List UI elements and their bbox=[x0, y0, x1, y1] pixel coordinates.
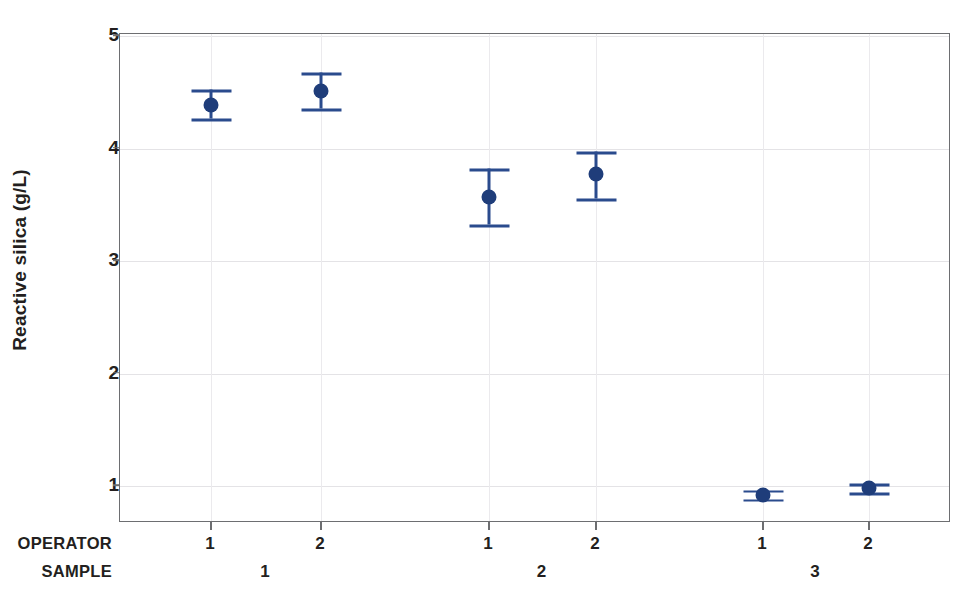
gridline-horizontal bbox=[120, 36, 949, 37]
gridline-vertical bbox=[489, 34, 490, 521]
operator-tick-label: 2 bbox=[315, 534, 324, 554]
data-point bbox=[596, 174, 597, 175]
y-axis-title: Reactive silica (g/L) bbox=[0, 0, 40, 520]
sample-tick-label: 1 bbox=[260, 562, 269, 582]
error-bar-cap-lower bbox=[191, 119, 231, 122]
gridline-vertical bbox=[869, 34, 870, 521]
data-point-marker bbox=[204, 97, 219, 112]
data-point-marker bbox=[314, 84, 329, 99]
operator-row-label: OPERATOR bbox=[0, 534, 112, 553]
data-point-marker bbox=[862, 481, 877, 496]
gridline-horizontal bbox=[120, 486, 949, 487]
data-point bbox=[489, 196, 490, 197]
error-bar-cap-upper bbox=[576, 151, 616, 154]
error-bar-cap-lower bbox=[469, 225, 509, 228]
x-tick-mark bbox=[762, 522, 764, 530]
error-bar-cap-upper bbox=[191, 90, 231, 93]
y-axis-ticks: 12345 bbox=[88, 0, 119, 607]
operator-tick-label: 1 bbox=[757, 534, 766, 554]
sample-row-label: SAMPLE bbox=[0, 562, 112, 581]
x-tick-mark bbox=[488, 522, 490, 530]
error-bar-cap-lower bbox=[576, 199, 616, 202]
x-tick-mark bbox=[210, 522, 212, 530]
operator-tick-label: 1 bbox=[483, 534, 492, 554]
x-tick-mark bbox=[320, 522, 322, 530]
error-bar-cap-upper bbox=[469, 168, 509, 171]
data-point bbox=[321, 91, 322, 92]
error-bar-cap-upper bbox=[301, 73, 341, 76]
gridline-horizontal bbox=[120, 261, 949, 262]
operator-tick-label: 2 bbox=[590, 534, 599, 554]
gridline-vertical bbox=[763, 34, 764, 521]
data-point-marker bbox=[756, 488, 771, 503]
data-point-marker bbox=[589, 167, 604, 182]
data-point bbox=[763, 495, 764, 496]
x-tick-mark bbox=[595, 522, 597, 530]
plot-area bbox=[119, 33, 950, 522]
gridline-vertical bbox=[596, 34, 597, 521]
x-axis-ticks bbox=[0, 522, 959, 532]
sample-tick-label: 2 bbox=[537, 562, 546, 582]
gridline-horizontal bbox=[120, 374, 949, 375]
data-point bbox=[211, 104, 212, 105]
x-tick-mark bbox=[868, 522, 870, 530]
operator-axis-row: OPERATOR 121212 bbox=[0, 534, 959, 560]
chart-page: Reactive silica (g/L) 12345 OPERATOR 121… bbox=[0, 0, 959, 607]
operator-tick-label: 1 bbox=[205, 534, 214, 554]
y-axis-title-text: Reactive silica (g/L) bbox=[9, 169, 31, 351]
error-bar-cap-lower bbox=[301, 109, 341, 112]
operator-tick-label: 2 bbox=[863, 534, 872, 554]
sample-tick-label: 3 bbox=[810, 562, 819, 582]
data-point bbox=[869, 488, 870, 489]
sample-axis-row: SAMPLE 123 bbox=[0, 562, 959, 588]
gridline-horizontal bbox=[120, 149, 949, 150]
data-point-marker bbox=[482, 189, 497, 204]
